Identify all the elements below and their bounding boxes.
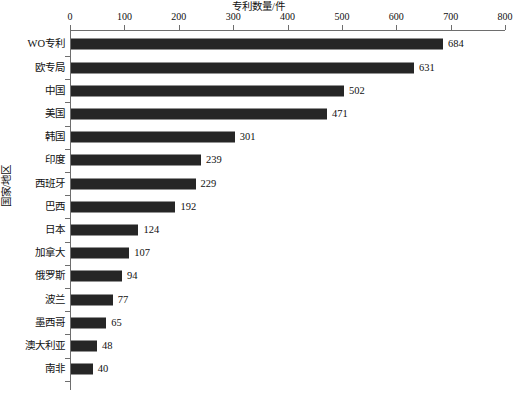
bar-value-label: 107 [134,247,150,259]
x-tick-label-100: 100 [94,11,154,23]
y-category-label: 澳大利亚 [0,340,65,352]
x-tick-400 [288,25,289,30]
bar [71,364,93,375]
y-tick [65,79,70,80]
bar-value-label: 684 [448,38,464,50]
y-category-label: 波兰 [0,294,65,306]
bar-value-label: 192 [180,201,196,213]
bar [71,108,327,119]
bar-value-label: 48 [102,340,113,352]
x-tick-label-800: 800 [475,11,517,23]
bar-value-label: 301 [240,131,256,143]
y-tick [65,242,70,243]
y-tick [65,265,70,266]
bar [71,85,344,96]
bar-value-label: 631 [419,62,435,74]
y-category-label: 日本 [0,224,65,236]
bar-value-label: 77 [118,294,129,306]
y-category-label: 巴西 [0,201,65,213]
y-category-label: 中国 [0,85,65,97]
y-category-label: 韩国 [0,131,65,143]
bar-value-label: 40 [98,363,109,375]
bar [71,224,138,235]
y-tick [65,334,70,335]
y-category-label: 墨西哥 [0,317,65,329]
y-category-label: 欧专局 [0,62,65,74]
y-category-label: 俄罗斯 [0,270,65,282]
x-tick-label-200: 200 [149,11,209,23]
x-tick-label-700: 700 [421,11,481,23]
y-category-label: WO专利 [0,38,65,50]
x-tick-label-300: 300 [203,11,263,23]
bar [71,340,97,351]
bar-value-label: 239 [206,154,222,166]
y-category-label: 印度 [0,154,65,166]
bar-value-label: 229 [201,178,217,190]
bar [71,62,414,73]
x-tick-300 [233,25,234,30]
bar [71,317,106,328]
bar [71,155,201,166]
bar-value-label: 471 [332,108,348,120]
x-tick-800 [505,25,506,30]
bar-chart: 专利数量/件 国家/地区 0100200300400500600700800 W… [0,0,517,398]
y-tick [65,126,70,127]
y-category-label: 西班牙 [0,178,65,190]
y-tick [65,311,70,312]
bar-value-label: 65 [111,317,122,329]
bar [71,248,129,259]
x-tick-500 [342,25,343,30]
x-tick-label-600: 600 [366,11,426,23]
y-tick [65,288,70,289]
x-axis-line [70,30,505,31]
x-tick-label-400: 400 [258,11,318,23]
bar-value-label: 502 [349,85,365,97]
bar [71,201,175,212]
bar-value-label: 124 [143,224,159,236]
x-tick-label-500: 500 [312,11,372,23]
y-tick [65,56,70,57]
y-tick [65,195,70,196]
x-tick-label-0: 0 [40,11,100,23]
y-tick [65,149,70,150]
bar-value-label: 94 [127,270,138,282]
x-tick-100 [124,25,125,30]
bar [71,39,443,50]
x-tick-600 [396,25,397,30]
y-category-label: 加拿大 [0,247,65,259]
bar [71,132,235,143]
y-tick [65,102,70,103]
y-tick [65,172,70,173]
y-tick [65,218,70,219]
x-tick-700 [451,25,452,30]
y-category-label: 南非 [0,363,65,375]
y-tick [65,381,70,382]
bar [71,294,113,305]
x-tick-200 [179,25,180,30]
plot-area: 0100200300400500600700800 WO专利684欧专局631中… [70,30,505,390]
y-tick [65,358,70,359]
bar [71,271,122,282]
x-tick-0 [70,25,71,30]
bar [71,178,196,189]
y-category-label: 美国 [0,108,65,120]
